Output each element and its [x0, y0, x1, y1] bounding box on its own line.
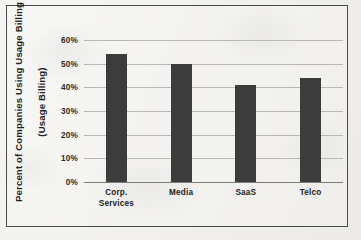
- plot-area: [84, 40, 343, 182]
- y-tick-label-20: 20%: [61, 130, 78, 139]
- y-tick-label-60: 60%: [61, 36, 78, 45]
- gridline-60: [84, 40, 343, 41]
- chart-figure: Percent of Companies Using Usage Billing…: [0, 0, 361, 240]
- axis-baseline: [84, 182, 343, 183]
- y-axis-title-line-1: Percent of Companies Using Usage Billing: [12, 2, 23, 202]
- bar-media: [171, 64, 192, 182]
- y-tick-label-50: 50%: [61, 59, 78, 68]
- bar-corp-services: [106, 54, 127, 182]
- x-tick-label-telco: Telco: [271, 188, 351, 199]
- y-axis-title-line-2: (Usage Billing): [35, 67, 46, 136]
- bar-saas: [235, 85, 256, 182]
- y-tick-label-30: 30%: [61, 107, 78, 116]
- y-tick-label-0: 0%: [66, 178, 78, 187]
- bar-telco: [300, 78, 321, 182]
- y-axis-title: Percent of Companies Using Usage Billing…: [8, 10, 52, 210]
- y-tick-label-10: 10%: [61, 154, 78, 163]
- y-tick-label-40: 40%: [61, 83, 78, 92]
- y-axis-tick-labels: 60% 50% 40% 30% 20% 10% 0%: [48, 40, 78, 182]
